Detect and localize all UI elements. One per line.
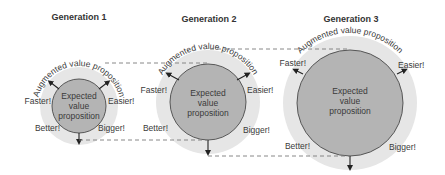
label-bigger: Bigger! (98, 123, 125, 133)
label-better: Better! (285, 141, 310, 151)
expected-line-2: value (198, 98, 219, 108)
label-bigger: Bigger! (389, 142, 416, 152)
label-easier: Easier! (108, 96, 134, 106)
label-better: Better! (143, 123, 168, 133)
label-easier: Easier! (247, 85, 273, 95)
expected-line-3: proposition (187, 108, 229, 118)
label-faster: Faster! (280, 58, 306, 68)
label-faster: Faster! (25, 96, 51, 106)
generation-1: Generation 1 Augmented value proposition… (25, 12, 135, 145)
expected-line-2: value (340, 96, 361, 106)
label-bigger: Bigger! (243, 125, 270, 135)
generation-title: Generation 3 (323, 14, 378, 24)
label-faster: Faster! (141, 85, 167, 95)
expected-line-1: Expected (190, 88, 226, 98)
generation-title: Generation 1 (51, 12, 106, 22)
label-easier: Easier! (398, 60, 424, 70)
generation-title: Generation 2 (181, 14, 236, 24)
expected-line-3: proposition (329, 106, 371, 116)
generation-3: Generation 3 Augmented value proposition… (280, 14, 425, 170)
expected-line-3: proposition (58, 111, 100, 121)
expected-line-1: Expected (61, 91, 97, 101)
label-better: Better! (35, 123, 60, 133)
expected-line-1: Expected (332, 86, 368, 96)
generation-2: Generation 2 Augmented value proposition… (141, 14, 274, 154)
expected-line-2: value (69, 101, 90, 111)
value-proposition-diagram: Generation 1 Augmented value proposition… (0, 0, 445, 175)
